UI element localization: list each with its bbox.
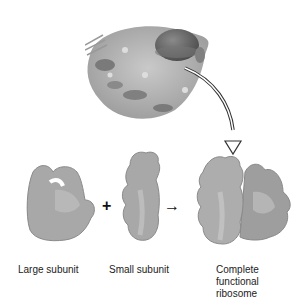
complete-ribosome-label-line2: functional — [216, 276, 259, 288]
complete-ribosome-label: Complete functional ribosome — [216, 264, 259, 300]
small-subunit-illustration — [118, 150, 168, 245]
plus-symbol: + — [102, 197, 111, 215]
complete-ribosome-label-line1: Complete — [216, 264, 259, 276]
large-subunit-label: Large subunit — [18, 264, 79, 276]
cell-illustration — [85, 0, 285, 140]
complete-ribosome-label-line3: ribosome — [216, 288, 259, 300]
arrow-symbol: → — [164, 197, 180, 215]
complete-ribosome-illustration — [195, 152, 295, 247]
small-subunit-label: Small subunit — [109, 264, 169, 276]
large-subunit-illustration — [25, 160, 100, 245]
